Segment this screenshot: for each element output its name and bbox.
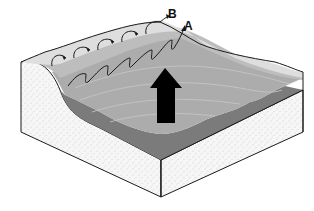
label-a: A [184, 20, 193, 32]
coastal-block-diagram [0, 0, 314, 211]
label-b: B [168, 8, 177, 20]
